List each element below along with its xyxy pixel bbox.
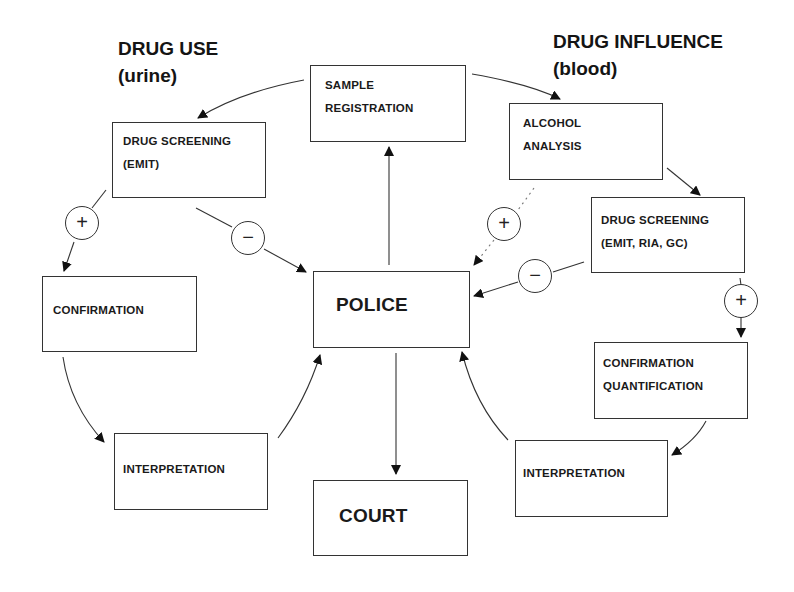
edge-blood-interpretation-to-police	[462, 352, 508, 440]
urine-confirmation-box: CONFIRMATION	[42, 276, 197, 352]
minus-sign-blood: −	[518, 259, 552, 293]
police-label: POLICE	[336, 293, 408, 316]
court-label: COURT	[339, 504, 408, 527]
blood-drug-screening-box: DRUG SCREENING (EMIT, RIA, GC)	[591, 197, 745, 273]
edge-minus-to-police-2	[474, 282, 518, 296]
edge-urine-screening-to-minus	[196, 208, 232, 227]
edge-blood-confirmation-to-interpretation	[672, 421, 706, 455]
court-box: COURT	[313, 480, 468, 556]
edge-sample-to-alcohol-analysis	[472, 74, 560, 99]
edge-plus-to-police-dotted	[474, 240, 494, 265]
plus-sign-alcohol: +	[487, 207, 521, 241]
sample-registration-label: SAMPLE REGISTRATION	[325, 74, 413, 120]
urine-interpretation-box: INTERPRETATION	[114, 433, 268, 510]
edge-urine-confirmation-to-interpretation	[63, 357, 104, 442]
edge-sample-to-urine-screening	[198, 80, 304, 118]
alcohol-analysis-box: ALCOHOL ANALYSIS	[509, 103, 663, 180]
edge-plus-to-urine-confirmation	[64, 242, 74, 271]
urine-drug-screening-box: DRUG SCREENING (EMIT)	[112, 122, 266, 198]
edge-urine-screening-to-plus	[92, 190, 106, 208]
blood-confirmation-label: CONFIRMATION QUANTIFICATION	[603, 352, 703, 398]
plus-sign-urine: +	[65, 206, 99, 240]
urine-interpretation-label: INTERPRETATION	[123, 458, 225, 481]
police-box: POLICE	[313, 271, 470, 348]
blood-confirmation-box: CONFIRMATION QUANTIFICATION	[594, 342, 748, 419]
urine-confirmation-label: CONFIRMATION	[53, 299, 144, 322]
blood-interpretation-label: INTERPRETATION	[523, 462, 625, 485]
plus-sign-blood: +	[724, 284, 758, 318]
urine-drug-screening-label: DRUG SCREENING (EMIT)	[123, 130, 231, 176]
edge-blood-screening-to-minus	[553, 262, 584, 272]
blood-interpretation-box: INTERPRETATION	[515, 440, 668, 517]
alcohol-analysis-label: ALCOHOL ANALYSIS	[523, 112, 582, 158]
blood-drug-screening-label: DRUG SCREENING (EMIT, RIA, GC)	[601, 209, 709, 255]
edge-alcohol-to-plus-dotted	[518, 188, 534, 210]
edge-urine-interpretation-to-police	[278, 355, 320, 438]
sample-registration-box: SAMPLE REGISTRATION	[310, 65, 466, 142]
minus-sign-urine: −	[231, 221, 265, 255]
edge-alcohol-to-blood-screening	[667, 168, 700, 195]
edge-minus-to-police	[264, 249, 306, 272]
